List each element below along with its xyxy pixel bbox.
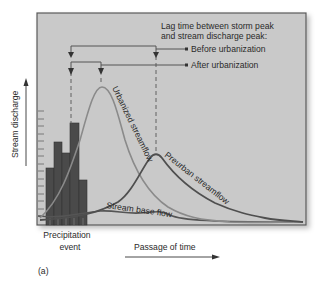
legend-after-urbanization: After urbanization bbox=[191, 60, 259, 70]
panel-label: (a) bbox=[38, 266, 49, 276]
y-axis-arrow-icon bbox=[24, 78, 29, 86]
stream-discharge-diagram: Urbanized streamflow Preurban streamflow… bbox=[0, 0, 316, 282]
precip-bar-4 bbox=[70, 123, 79, 225]
precip-bar-3 bbox=[62, 153, 70, 225]
x-axis-label: Passage of time bbox=[134, 242, 196, 252]
y-axis-label: Stream discharge bbox=[10, 90, 20, 158]
precip-bar-2 bbox=[54, 142, 62, 225]
legend-before-urbanization: Before urbanization bbox=[191, 44, 266, 54]
precipitation-label-line2: event bbox=[59, 242, 81, 252]
legend-title-line2: and stream discharge peak: bbox=[161, 31, 267, 41]
x-axis-arrow-icon bbox=[212, 255, 220, 260]
legend-title-line1: Lag time between storm peak bbox=[161, 21, 274, 31]
precipitation-label-line1: Precipitation bbox=[43, 230, 91, 240]
